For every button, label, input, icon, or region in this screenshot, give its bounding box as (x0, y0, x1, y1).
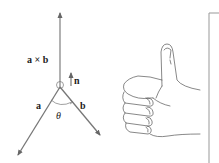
vector-a-label: a (36, 101, 41, 111)
vector-b-label: b (80, 101, 86, 111)
frame-border (209, 13, 219, 163)
vector-a-arrow (18, 87, 60, 155)
angle-theta-label: θ (56, 111, 61, 121)
vector-b-arrow (60, 87, 100, 135)
right-hand-illustration (123, 44, 200, 137)
vector-drawing (0, 0, 219, 163)
cross-product-diagram: a × b n a b θ (0, 0, 219, 163)
angle-arc (51, 100, 73, 105)
cross-product-label: a × b (27, 55, 48, 65)
normal-label: n (74, 76, 80, 86)
